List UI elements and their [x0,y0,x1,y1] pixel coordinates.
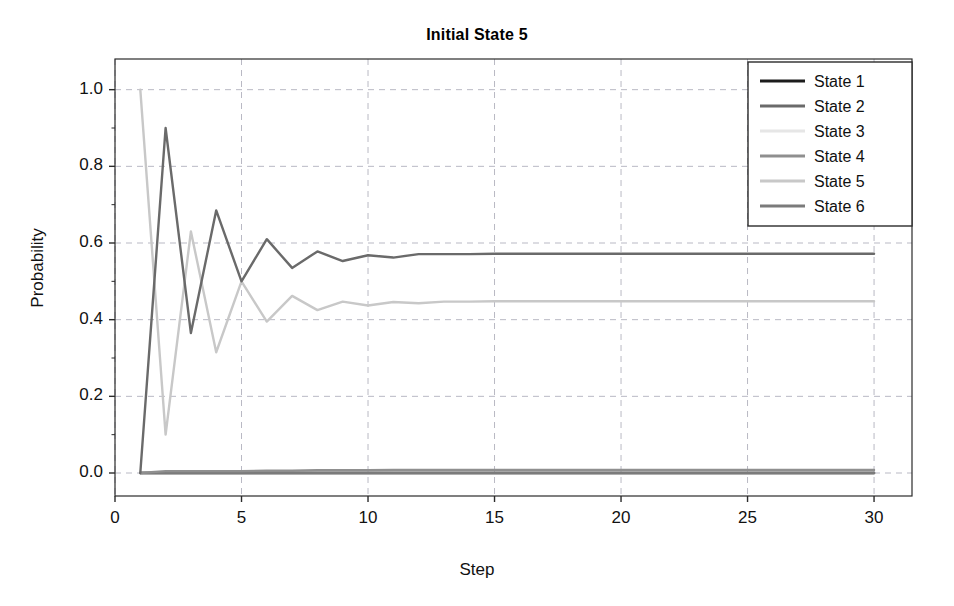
chart-figure: Initial State 5 State 1State 2State 3Sta… [0,0,954,606]
x-tick-label: 30 [844,508,904,528]
y-tick-label: 1.0 [33,79,103,99]
legend-label-state-3: State 3 [814,123,865,140]
y-tick-label: 0.8 [33,155,103,175]
x-tick-label: 10 [338,508,398,528]
legend-label-state-2: State 2 [814,98,865,115]
x-tick-label: 15 [465,508,525,528]
legend: State 1State 2State 3State 4State 5State… [748,62,912,226]
y-tick-label: 0.6 [33,232,103,252]
legend-label-state-4: State 4 [814,148,865,165]
x-axis-label: Step [0,560,954,580]
legend-label-state-1: State 1 [814,73,865,90]
y-tick-label: 0.2 [33,385,103,405]
x-tick-label: 20 [591,508,651,528]
legend-label-state-5: State 5 [814,173,865,190]
y-tick-label: 0.4 [33,309,103,329]
y-axis-label: Probability [28,168,48,368]
x-tick-label: 25 [718,508,778,528]
x-tick-label: 0 [85,508,145,528]
legend-label-state-6: State 6 [814,198,865,215]
x-tick-label: 5 [212,508,272,528]
y-tick-label: 0.0 [33,462,103,482]
